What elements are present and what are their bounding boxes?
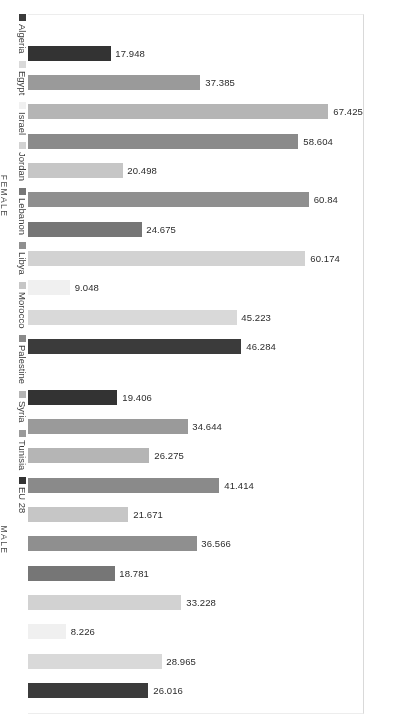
bar-track: 41.414 <box>28 471 363 500</box>
legend-items: AlgeriaEgyptIsraelJordanLebanonLibyaMoro… <box>17 14 28 714</box>
legend-item[interactable]: Israel <box>17 102 28 135</box>
bar-value-label: 67.425 <box>333 106 363 117</box>
bar-value-label: 46.284 <box>246 341 276 352</box>
legend-label: Jordan <box>17 152 28 181</box>
bar-track: 58.604 <box>28 127 363 156</box>
bar-row: 34.644 <box>28 412 363 441</box>
legend-swatch-icon <box>19 430 26 437</box>
bar[interactable] <box>28 251 305 266</box>
bar-row: 18.781 <box>28 559 363 588</box>
legend-item[interactable]: Jordan <box>17 142 28 181</box>
bar-track: 17.948 <box>28 39 363 68</box>
legend-item[interactable]: Egypt <box>17 61 28 95</box>
bar-row: 19.406 <box>28 383 363 412</box>
bar-value-label: 58.604 <box>303 136 333 147</box>
bar[interactable] <box>28 75 200 90</box>
legend-item[interactable]: EU 28 <box>17 477 28 513</box>
bar-value-label: 21.671 <box>133 509 163 520</box>
legend-item[interactable]: Syria <box>17 391 28 423</box>
bar-row: 24.675 <box>28 215 363 244</box>
bar-track: 67.425 <box>28 97 363 126</box>
bar[interactable] <box>28 390 117 405</box>
bar-row: 46.284 <box>28 332 363 361</box>
bar-row: 67.425 <box>28 97 363 126</box>
bar[interactable] <box>28 536 197 551</box>
bar-value-label: 60.174 <box>310 253 340 264</box>
bar-track: 60.84 <box>28 185 363 214</box>
legend: AlgeriaEgyptIsraelJordanLebanonLibyaMoro… <box>2 14 28 714</box>
bar-row: 41.414 <box>28 471 363 500</box>
bar[interactable] <box>28 683 148 698</box>
legend-label: Israel <box>17 112 28 135</box>
bar[interactable] <box>28 163 123 178</box>
bar-row: 20.498 <box>28 156 363 185</box>
bar[interactable] <box>28 478 219 493</box>
bar-track: 26.016 <box>28 676 363 705</box>
chart-figure: 26.01628.9658.22633.22818.78136.56621.67… <box>0 0 394 722</box>
bar-track: 9.048 <box>28 273 363 302</box>
bar[interactable] <box>28 624 66 639</box>
legend-swatch-icon <box>19 477 26 484</box>
bar-track: 34.644 <box>28 412 363 441</box>
bar[interactable] <box>28 134 298 149</box>
bar-value-label: 45.223 <box>242 312 272 323</box>
bar-value-label: 37.385 <box>205 77 235 88</box>
legend-item[interactable]: Morocco <box>17 282 28 328</box>
bar-value-label: 24.675 <box>147 224 177 235</box>
bar-row: 60.174 <box>28 244 363 273</box>
legend-item[interactable]: Palestine <box>17 335 28 384</box>
bar[interactable] <box>28 448 149 463</box>
bar-value-label: 33.228 <box>186 597 216 608</box>
bar-value-label: 41.414 <box>224 480 254 491</box>
bar-row: 36.566 <box>28 529 363 558</box>
bar-row: 26.016 <box>28 676 363 705</box>
bar-track: 60.174 <box>28 244 363 273</box>
legend-swatch-icon <box>19 242 26 249</box>
bar[interactable] <box>28 222 142 237</box>
plot-area: 26.01628.9658.22633.22818.78136.56621.67… <box>28 14 364 714</box>
bar-list-female: 46.28445.2239.04860.17424.67560.8420.498… <box>28 39 363 361</box>
bar-track: 19.406 <box>28 383 363 412</box>
legend-item[interactable]: Libya <box>17 242 28 275</box>
bar-row: 26.275 <box>28 441 363 470</box>
legend-swatch-icon <box>19 61 26 68</box>
legend-swatch-icon <box>19 335 26 342</box>
legend-label: Algeria <box>17 24 28 54</box>
legend-label: EU 28 <box>17 487 28 513</box>
bar[interactable] <box>28 280 70 295</box>
bar[interactable] <box>28 192 309 207</box>
bar[interactable] <box>28 339 241 354</box>
bar-row: 37.385 <box>28 68 363 97</box>
bar-track: 37.385 <box>28 68 363 97</box>
bar-value-label: 20.498 <box>128 165 158 176</box>
legend-item[interactable]: Algeria <box>17 14 28 54</box>
bar[interactable] <box>28 104 328 119</box>
bar-row: 9.048 <box>28 273 363 302</box>
bar[interactable] <box>28 419 188 434</box>
bar-row: 28.965 <box>28 646 363 675</box>
bar[interactable] <box>28 310 237 325</box>
bar[interactable] <box>28 566 115 581</box>
bar[interactable] <box>28 595 181 610</box>
bar-value-label: 34.644 <box>193 421 223 432</box>
legend-item[interactable]: Tunisia <box>17 430 28 470</box>
legend-label: Libya <box>17 252 28 275</box>
legend-label: Palestine <box>17 345 28 384</box>
bar-value-label: 28.965 <box>167 656 197 667</box>
bar[interactable] <box>28 507 128 522</box>
legend-swatch-icon <box>19 142 26 149</box>
bar-group-female: 46.28445.2239.04860.17424.67560.8420.498… <box>28 31 363 361</box>
legend-swatch-icon <box>19 14 26 21</box>
bar-track: 28.965 <box>28 646 363 675</box>
bar-track: 8.226 <box>28 617 363 646</box>
bar-value-label: 9.048 <box>75 282 99 293</box>
legend-item[interactable]: Lebanon <box>17 188 28 235</box>
bar-track: 24.675 <box>28 215 363 244</box>
bar-value-label: 8.226 <box>71 626 95 637</box>
bar[interactable] <box>28 46 111 61</box>
bar[interactable] <box>28 654 162 669</box>
bar-group-male: 26.01628.9658.22633.22818.78136.56621.67… <box>28 375 363 705</box>
bar-row: 17.948 <box>28 39 363 68</box>
bar-track: 33.228 <box>28 588 363 617</box>
legend-swatch-icon <box>19 102 26 109</box>
